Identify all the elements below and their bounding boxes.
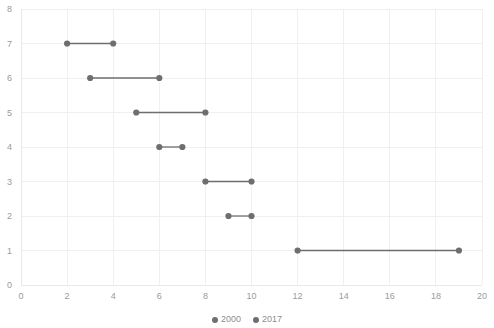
gridlines: [21, 9, 482, 285]
svg-text:8: 8: [203, 291, 208, 300]
svg-text:16: 16: [385, 291, 395, 300]
dumbbell-chart: 012345678 02468101214161820 20002017: [0, 0, 494, 328]
legend-label: 2000: [221, 315, 241, 324]
legend-label: 2017: [262, 315, 282, 324]
svg-text:0: 0: [18, 291, 23, 300]
chart-title: [0, 0, 494, 4]
svg-text:4: 4: [7, 142, 12, 152]
svg-text:8: 8: [7, 4, 12, 14]
svg-text:6: 6: [7, 73, 12, 83]
legend-item-2000[interactable]: 2000: [212, 315, 241, 324]
svg-text:2: 2: [65, 291, 70, 300]
legend-marker-icon: [212, 317, 218, 323]
legend-item-2017[interactable]: 2017: [253, 315, 282, 324]
svg-text:2: 2: [7, 211, 12, 221]
y-axis-tick-labels: 012345678: [7, 4, 12, 290]
plot-area: 012345678 02468101214161820: [0, 0, 494, 300]
svg-text:10: 10: [246, 291, 256, 300]
svg-text:0: 0: [7, 280, 12, 290]
x-axis-tick-labels: 02468101214161820: [18, 291, 487, 300]
chart-legend: 20002017: [0, 315, 494, 324]
svg-text:5: 5: [7, 108, 12, 118]
svg-text:1: 1: [7, 246, 12, 256]
svg-text:18: 18: [431, 291, 441, 300]
svg-text:20: 20: [477, 291, 487, 300]
svg-text:4: 4: [111, 291, 116, 300]
svg-text:3: 3: [7, 177, 12, 187]
svg-text:7: 7: [7, 39, 12, 49]
svg-text:6: 6: [157, 291, 162, 300]
svg-text:14: 14: [339, 291, 349, 300]
svg-text:12: 12: [293, 291, 303, 300]
legend-marker-icon: [253, 317, 259, 323]
